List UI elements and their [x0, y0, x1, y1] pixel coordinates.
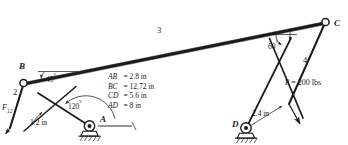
dimension-value: = 5.6 in — [123, 91, 154, 101]
link-label-4: 4 — [303, 56, 307, 65]
joint-label-A: A — [100, 115, 106, 124]
table-row: CD = 5.6 in — [108, 91, 154, 101]
table-row: AB = 2.8 in — [108, 72, 154, 82]
table-row: BC = 12.72 in — [108, 82, 154, 92]
mechanism-diagram: B C A D 3 2 4 45° 120° 60° F12 P = 200 l… — [0, 0, 348, 145]
dimension-segment: BC — [108, 82, 123, 92]
angle-120-value: 120 — [68, 102, 79, 111]
offset-label-2_4in: 2.4 in — [252, 110, 269, 118]
dimension-equals: = — [123, 82, 127, 91]
joint-label-B: B — [19, 62, 25, 71]
link-4-member — [289, 24, 325, 124]
dimension-table-body: AB = 2.8 in BC = 12.72 in CD = 5.6 in AD… — [108, 72, 154, 110]
force-label-P: P = 200 lbs — [285, 79, 321, 87]
angle-60-value: 60 — [268, 42, 276, 51]
dimension-equals: = — [123, 72, 127, 81]
dimension-segment: AB — [108, 72, 123, 82]
link-3-member — [24, 22, 326, 86]
link-label-2: 2 — [13, 88, 17, 97]
dimension-equals: = — [123, 101, 127, 110]
angle-45-unit: ° — [54, 73, 56, 79]
dimension-table: AB = 2.8 in BC = 12.72 in CD = 5.6 in AD… — [108, 72, 154, 110]
angle-label-45: 45° — [46, 73, 56, 83]
force-F12-subscript: 12 — [7, 108, 13, 114]
dimension-value: = 8 in — [123, 101, 154, 111]
dimension-measure: 12.72 in — [130, 82, 155, 91]
joint-label-C: C — [334, 19, 340, 28]
support-A — [79, 121, 101, 141]
angle-label-60: 60° — [268, 40, 278, 50]
angle-120-unit: ° — [79, 100, 81, 106]
table-row: AD = 8 in — [108, 101, 154, 111]
dimension-measure: 5.6 in — [130, 91, 147, 100]
dimension-measure: 8 in — [130, 101, 141, 110]
dimension-equals: = — [123, 91, 127, 100]
force-label-F12: F12 — [2, 104, 12, 114]
joint-label-D: D — [232, 120, 239, 129]
angle-label-120: 120° — [68, 100, 82, 110]
dimension-measure: 2.8 in — [130, 72, 147, 81]
dimension-segment: AD — [108, 101, 123, 111]
dimension-segment: CD — [108, 91, 123, 101]
joint-C — [322, 18, 329, 25]
dimension-value: = 2.8 in — [123, 72, 154, 82]
offset-label-1_2in: 1.2 in — [30, 119, 47, 127]
angle-60-unit: ° — [276, 40, 278, 46]
joint-B — [20, 79, 27, 86]
dimension-value: = 12.72 in — [123, 82, 154, 92]
angle-45-value: 45 — [46, 75, 54, 84]
dimension-list: AB = 2.8 in BC = 12.72 in CD = 5.6 in AD… — [108, 72, 154, 110]
link-label-3: 3 — [157, 26, 161, 35]
